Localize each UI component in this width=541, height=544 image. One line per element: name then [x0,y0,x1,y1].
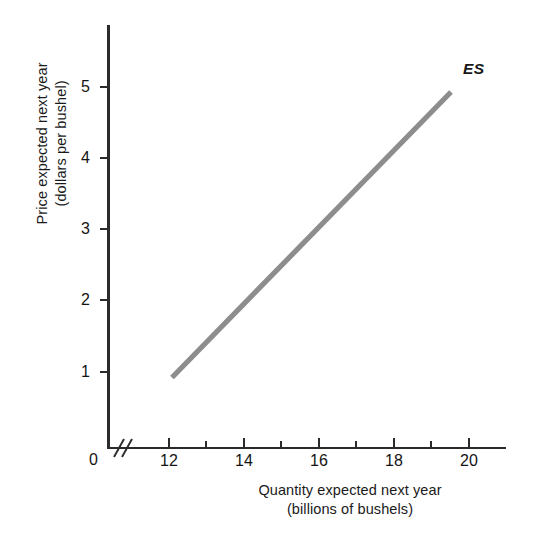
curve-label-es: ES [463,60,484,78]
y-tick-label-2: 2 [68,292,90,308]
y-tick-label-1: 1 [68,364,90,380]
origin-label: 0 [76,452,98,468]
x-axis-major-ticks [169,438,469,448]
curve-es [172,92,451,378]
x-axis-title-line2: (billions of bushels) [185,500,515,519]
y-tick-label-3: 3 [68,221,90,237]
chart-figure: Price expected next year (dollars per bu… [0,0,541,544]
x-tick-label-16: 16 [304,453,334,469]
y-tick-label-5: 5 [68,79,90,95]
x-tick-label-18: 18 [379,453,409,469]
x-tick-label-14: 14 [229,453,259,469]
x-axis-title-line1: Quantity expected next year [185,481,515,500]
y-axis-title: Price expected next year (dollars per bu… [0,0,90,290]
x-tick-label-20: 20 [454,453,484,469]
y-tick-label-4: 4 [68,150,90,166]
x-axis-title: Quantity expected next year (billions of… [185,481,515,520]
y-axis-title-line1: Price expected next year [33,19,52,267]
x-tick-label-12: 12 [154,453,184,469]
